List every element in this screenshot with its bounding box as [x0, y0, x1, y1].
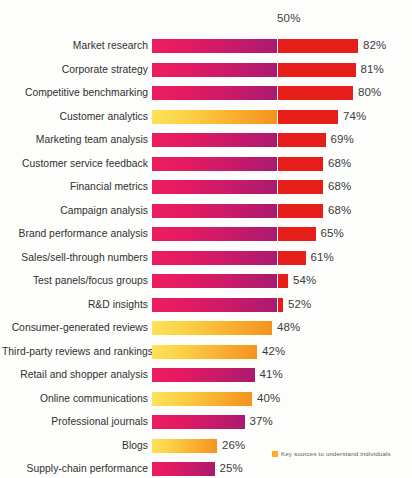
- bar-segment-above-50: [278, 227, 316, 241]
- bar-row: Test panels/focus groups54%: [0, 273, 412, 297]
- bar-row-label: Campaign analysis: [2, 204, 148, 218]
- bar-row: Professional journals37%: [0, 414, 412, 438]
- bar-track: [152, 415, 245, 429]
- bar-segment-above-50: [278, 251, 306, 265]
- bar-segment-key-source: [152, 439, 217, 453]
- bar-row: Corporate strategy81%: [0, 62, 412, 86]
- bar-row: Third-party reviews and rankings42%: [0, 344, 412, 368]
- bar-segment-internal: [152, 204, 277, 218]
- bar-value-label: 82%: [363, 38, 386, 53]
- bar-track: [152, 110, 338, 124]
- bar-segment-internal: [152, 63, 277, 77]
- bar-row-label: Marketing team analysis: [2, 133, 148, 147]
- bar-row: Brand performance analysis65%: [0, 226, 412, 250]
- bar-value-label: 68%: [328, 203, 351, 218]
- gridline-label-50: 50%: [277, 12, 301, 24]
- bar-row-label: Blogs: [2, 439, 148, 453]
- bar-segment-above-50: [278, 86, 353, 100]
- bar-segment-above-50: [278, 63, 356, 77]
- bar-row: Customer service feedback68%: [0, 156, 412, 180]
- bar-row: Consumer-generated reviews48%: [0, 320, 412, 344]
- bar-row: Sales/sell-through numbers61%: [0, 250, 412, 274]
- bar-value-label: 74%: [343, 109, 366, 124]
- bar-segment-internal: [152, 298, 277, 312]
- bar-row: Campaign analysis68%: [0, 203, 412, 227]
- bar-value-label: 81%: [361, 62, 384, 77]
- bar-row-label: Professional journals: [2, 415, 148, 429]
- bar-row: Marketing team analysis69%: [0, 132, 412, 156]
- bar-row-label: Test panels/focus groups: [2, 274, 148, 288]
- bar-track: [152, 157, 323, 171]
- bar-segment-key-source: [152, 110, 277, 124]
- bar-segment-key-source: [152, 345, 257, 359]
- bar-value-label: 52%: [288, 297, 311, 312]
- bar-segment-above-50: [278, 110, 338, 124]
- bar-track: [152, 298, 283, 312]
- bar-row-label: Corporate strategy: [2, 63, 148, 77]
- horizontal-bar-chart: 50% Market research82%Corporate strategy…: [0, 0, 412, 478]
- bar-track: [152, 180, 323, 194]
- bar-segment-above-50: [278, 204, 323, 218]
- bar-segment-internal: [152, 462, 215, 476]
- bar-row-label: Financial metrics: [2, 180, 148, 194]
- bar-segment-above-50: [278, 133, 326, 147]
- bar-segment-above-50: [278, 274, 288, 288]
- bar-row-label: Third-party reviews and rankings: [2, 345, 148, 359]
- bar-segment-internal: [152, 368, 255, 382]
- bar-segment-key-source: [152, 392, 252, 406]
- bar-row-label: Retail and shopper analysis: [2, 368, 148, 382]
- bar-value-label: 26%: [222, 438, 245, 453]
- legend-swatch-key-sources: [272, 451, 278, 457]
- bar-track: [152, 368, 255, 382]
- bar-track: [152, 321, 272, 335]
- bar-row-label: Consumer-generated reviews: [2, 321, 148, 335]
- bar-track: [152, 439, 217, 453]
- bar-row: Market research82%: [0, 38, 412, 62]
- bar-segment-internal: [152, 274, 277, 288]
- bar-track: [152, 63, 356, 77]
- bar-row: Competitive benchmarking80%: [0, 85, 412, 109]
- bar-segment-above-50: [278, 157, 323, 171]
- bar-track: [152, 462, 215, 476]
- bar-row-label: Supply-chain performance: [2, 462, 148, 476]
- bar-value-label: 65%: [321, 226, 344, 241]
- bar-row: Financial metrics68%: [0, 179, 412, 203]
- bar-segment-internal: [152, 157, 277, 171]
- bar-value-label: 41%: [260, 367, 283, 382]
- bar-segment-internal: [152, 39, 277, 53]
- bar-segment-internal: [152, 133, 277, 147]
- bar-track: [152, 39, 358, 53]
- chart-legend: Key sources to understand individuals: [272, 450, 391, 457]
- bar-row: Customer analytics74%: [0, 109, 412, 133]
- bar-value-label: 68%: [328, 179, 351, 194]
- bar-row-label: Market research: [2, 39, 148, 53]
- bar-row-label: Customer analytics: [2, 110, 148, 124]
- bar-value-label: 68%: [328, 156, 351, 171]
- bar-row: Supply-chain performance25%: [0, 461, 412, 478]
- bar-row-label: R&D insights: [2, 298, 148, 312]
- bar-track: [152, 204, 323, 218]
- bar-track: [152, 345, 257, 359]
- bar-value-label: 48%: [277, 320, 300, 335]
- bar-track: [152, 86, 353, 100]
- bar-row: Online communications40%: [0, 391, 412, 415]
- bar-segment-internal: [152, 415, 245, 429]
- bar-value-label: 42%: [262, 344, 285, 359]
- bar-segment-above-50: [278, 298, 283, 312]
- bar-value-label: 37%: [250, 414, 273, 429]
- bar-track: [152, 227, 316, 241]
- bar-value-label: 61%: [311, 250, 334, 265]
- bar-track: [152, 251, 306, 265]
- bar-track: [152, 133, 326, 147]
- bar-row-label: Brand performance analysis: [2, 227, 148, 241]
- bar-row-label: Online communications: [2, 392, 148, 406]
- bar-track: [152, 274, 288, 288]
- bar-value-label: 40%: [257, 391, 280, 406]
- bar-row-label: Customer service feedback: [2, 157, 148, 171]
- bar-row: Retail and shopper analysis41%: [0, 367, 412, 391]
- legend-label-key-sources: Key sources to understand individuals: [281, 450, 391, 457]
- bar-segment-above-50: [278, 39, 358, 53]
- bar-segment-internal: [152, 227, 277, 241]
- bar-segment-internal: [152, 180, 277, 194]
- bar-value-label: 25%: [220, 461, 243, 476]
